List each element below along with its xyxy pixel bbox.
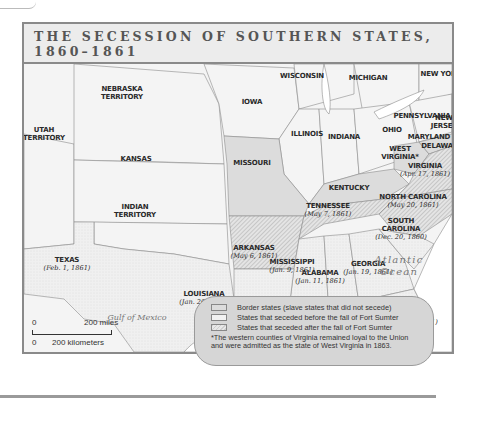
svg-text:(May 20, 1861): (May 20, 1861) <box>387 201 438 209</box>
svg-text:WISCONSIN: WISCONSIN <box>280 72 324 80</box>
utah-territory <box>24 134 74 249</box>
svg-text:WEST: WEST <box>389 145 411 153</box>
svg-text:(Jan. 11, 1861): (Jan. 11, 1861) <box>295 277 345 285</box>
legend-note: *The western counties of Virginia remain… <box>211 334 425 350</box>
indiana <box>319 109 359 184</box>
svg-text:MICHIGAN: MICHIGAN <box>349 74 388 82</box>
svg-text:(Feb. 1, 1861): (Feb. 1, 1861) <box>44 264 91 272</box>
svg-text:(Apr. 17, 1861): (Apr. 17, 1861) <box>400 170 451 178</box>
map-frame: THE SECESSION OF SOUTHERN STATES, 1860–1… <box>22 22 454 354</box>
svg-text:MISSISSIPPI: MISSISSIPPI <box>270 258 315 266</box>
svg-text:INDIAN: INDIAN <box>122 203 149 211</box>
svg-text:TEXAS: TEXAS <box>55 256 80 264</box>
border-swatch <box>211 304 227 311</box>
before-swatch <box>211 314 227 321</box>
svg-text:MISSOURI: MISSOURI <box>233 159 270 167</box>
map-title-line2: 1860–1861 <box>34 44 442 59</box>
svg-text:TERRITORY: TERRITORY <box>101 93 144 101</box>
svg-text:DELAWARE: DELAWARE <box>421 142 452 150</box>
svg-text:ILLINOIS: ILLINOIS <box>291 130 323 138</box>
svg-text:UTAH: UTAH <box>34 126 55 134</box>
svg-text:NEW YORK: NEW YORK <box>421 70 452 78</box>
svg-text:NORTH CAROLINA: NORTH CAROLINA <box>379 193 447 201</box>
svg-text:ARKANSAS: ARKANSAS <box>233 244 275 252</box>
svg-text:NEBRASKA: NEBRASKA <box>101 85 143 93</box>
legend: Border states (slave states that did not… <box>194 296 434 366</box>
scale-line <box>32 330 112 335</box>
legend-item-after: States that seceded after the fall of Fo… <box>211 322 425 332</box>
svg-text:KANSAS: KANSAS <box>120 155 151 163</box>
svg-text:TERRITORY: TERRITORY <box>24 134 66 142</box>
scale-zero-km: 0 <box>32 338 36 347</box>
svg-text:IOWA: IOWA <box>242 98 263 106</box>
atlantic-label-1: Atlantic <box>373 254 423 265</box>
svg-text:OHIO: OHIO <box>382 126 402 134</box>
svg-text:MARYLAND: MARYLAND <box>408 133 451 141</box>
svg-text:KENTUCKY: KENTUCKY <box>329 184 371 192</box>
scale-km-label: 200 kilometers <box>52 338 104 347</box>
legend-item-before: States that seceded before the fall of F… <box>211 312 425 322</box>
svg-text:(May 7, 1861): (May 7, 1861) <box>305 210 352 218</box>
after-swatch <box>211 324 227 331</box>
scale-miles-label: 200 miles <box>84 318 118 327</box>
svg-text:ALABAMA: ALABAMA <box>301 269 339 277</box>
scan-smudge <box>0 2 36 9</box>
scale-bar: 0 200 miles 0 200 kilometers <box>32 318 192 358</box>
svg-text:NEW: NEW <box>435 114 452 122</box>
map-area: NEBRASKA TERRITORY IOWA WISCONSIN MICHIG… <box>24 64 452 352</box>
svg-text:TENNESSEE: TENNESSEE <box>306 202 350 210</box>
title-bar: THE SECESSION OF SOUTHERN STATES, 1860–1… <box>24 24 452 64</box>
svg-text:TERRITORY: TERRITORY <box>114 211 157 219</box>
svg-text:SOUTH: SOUTH <box>388 217 415 225</box>
svg-text:VIRGINIA*: VIRGINIA* <box>381 153 419 161</box>
nebraska-territory <box>74 64 224 164</box>
svg-text:(Dec. 20, 1860): (Dec. 20, 1860) <box>375 233 427 241</box>
svg-text:CAROLINA: CAROLINA <box>382 225 421 233</box>
svg-text:INDIANA: INDIANA <box>328 133 361 141</box>
svg-text:JERSEY: JERSEY <box>430 122 452 130</box>
bottom-rule <box>0 395 436 398</box>
scale-zero-miles: 0 <box>32 318 36 327</box>
map-title-line1: THE SECESSION OF SOUTHERN STATES, <box>34 29 442 44</box>
legend-item-border: Border states (slave states that did not… <box>211 302 425 312</box>
atlantic-label-2: Ocean <box>380 266 418 277</box>
svg-text:VIRGINIA: VIRGINIA <box>408 162 443 170</box>
